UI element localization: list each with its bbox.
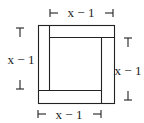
left-label: x − 1 — [8, 52, 35, 67]
right-label: x − 1 — [115, 63, 142, 78]
square-diagram: x − 1 x − 1 x − 1 x − 1 — [0, 0, 144, 123]
right-dimension: x − 1 — [115, 38, 142, 100]
bottom-dimension: x − 1 — [38, 107, 101, 122]
top-label: x − 1 — [68, 5, 95, 20]
left-dimension: x − 1 — [8, 28, 35, 89]
bottom-label: x − 1 — [56, 107, 83, 122]
top-dimension: x − 1 — [50, 5, 113, 20]
